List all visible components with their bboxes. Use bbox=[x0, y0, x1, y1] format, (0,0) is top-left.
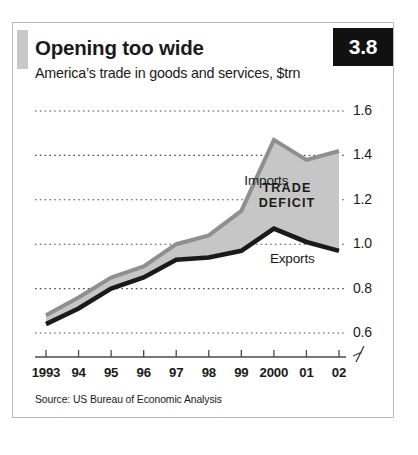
trade-deficit-band bbox=[46, 140, 339, 324]
y-axis-tick-label: 1.0 bbox=[353, 235, 372, 251]
source-note: Source: US Bureau of Economic Analysis bbox=[35, 394, 222, 405]
trade-deficit-label: TRADEDEFICIT bbox=[245, 181, 329, 211]
trade-deficit-label-line: DEFICIT bbox=[245, 196, 329, 211]
series-label-exports: Exports bbox=[270, 251, 315, 266]
trade-deficit-label-line: TRADE bbox=[245, 181, 329, 196]
y-axis-tick-label: 0.6 bbox=[353, 324, 372, 340]
y-axis-tick-label: 1.6 bbox=[353, 102, 372, 118]
y-axis-tick-label: 1.4 bbox=[353, 146, 372, 162]
chart-plot-area: 1.61.41.21.00.80.6 199394959697989920000… bbox=[13, 23, 394, 418]
x-axis-tick-label: 02 bbox=[316, 365, 362, 380]
axis-break-icon bbox=[353, 346, 364, 362]
x-axis bbox=[35, 346, 364, 362]
chart-svg bbox=[13, 23, 394, 418]
y-axis-tick-label: 0.8 bbox=[353, 280, 372, 296]
chart-card: 3.8 Opening too wide America’s trade in … bbox=[12, 22, 394, 418]
y-axis-tick-label: 1.2 bbox=[353, 191, 372, 207]
trade-deficit-area bbox=[46, 140, 339, 324]
